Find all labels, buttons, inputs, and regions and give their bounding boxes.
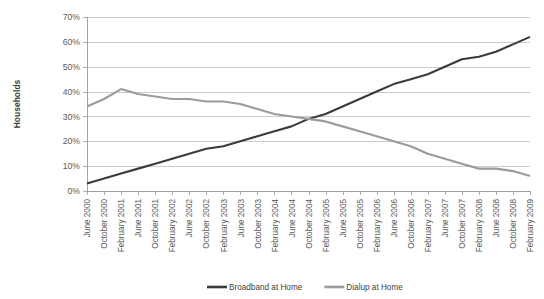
x-axis-tick-label: February 2003 [220,199,229,253]
x-axis-tick-label: June 2007 [441,199,450,238]
x-axis-tick-label: June 2001 [134,199,143,238]
y-axis-ticks-group: 0%10%20%30%40%50%60%70% [63,12,87,196]
x-axis-tick-label: February 2009 [526,199,535,253]
y-axis-tick-label: 10% [63,161,81,171]
x-axis-tick-label: October 2001 [151,199,160,249]
y-axis-tick-label: 20% [63,136,81,146]
y-axis-tick-label: 70% [63,12,81,22]
x-axis-tick-label: October 2006 [407,199,416,249]
series-line [87,37,530,184]
x-axis-tick-label: October 2008 [509,199,518,249]
x-axis-tick-label: February 2001 [117,199,126,253]
x-axis-tick-label: June 2008 [492,199,501,238]
data-series-group [87,37,530,184]
line-chart: 0%10%20%30%40%50%60%70% June 2000October… [0,0,544,299]
x-axis-tick-label: June 2006 [390,199,399,238]
y-axis-tick-label: 60% [63,37,81,47]
axis-lines-group [87,17,530,192]
x-axis-tick-label: June 2003 [237,199,246,238]
x-axis-tick-label: June 2000 [83,199,92,238]
x-axis-tick-label: October 2007 [458,199,467,249]
chart-container: 0%10%20%30%40%50%60%70% June 2000October… [0,0,544,299]
x-axis-tick-label: February 2004 [271,199,280,253]
x-axis-tick-label: October 2004 [305,199,314,249]
x-axis-tick-label: February 2007 [424,199,433,253]
x-axis-tick-label: June 2002 [185,199,194,238]
x-axis-tick-label: February 2006 [373,199,382,253]
series-line [87,89,530,176]
x-axis-tick-label: October 2003 [254,199,263,249]
x-axis-tick-label: October 2002 [202,199,211,249]
gridlines-group [87,18,530,192]
x-axis-tick-label: June 2004 [288,199,297,238]
y-axis-tick-label: 40% [63,87,81,97]
y-axis-tick-label: 0% [68,186,81,196]
x-axis-ticks-group: June 2000October 2000February 2001June 2… [83,191,535,252]
y-axis-title: Households [12,79,22,128]
legend-label: Broadband at Home [229,283,303,292]
x-axis-tick-label: October 2000 [100,199,109,249]
y-axis-tick-label: 30% [63,112,81,122]
x-axis-tick-label: October 2005 [356,199,365,249]
y-axis-tick-label: 50% [63,62,81,72]
x-axis-tick-label: February 2008 [475,199,484,253]
x-axis-tick-label: June 2005 [339,199,348,238]
legend-label: Dialup at Home [346,283,403,292]
chart-legend: Broadband at HomeDialup at Home [207,283,403,292]
x-axis-tick-label: February 2005 [322,199,331,253]
x-axis-tick-label: February 2002 [168,199,177,253]
